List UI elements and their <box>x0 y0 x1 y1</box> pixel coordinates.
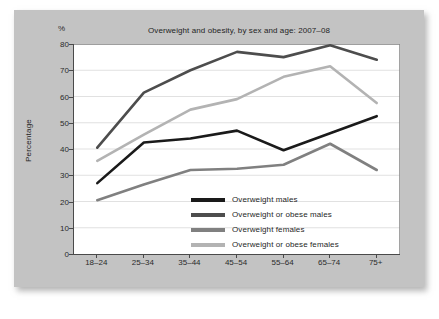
chart-legend: Overweight malesOverweight or obese male… <box>191 192 391 252</box>
legend-swatch <box>191 213 225 217</box>
y-tick-label: 60 <box>60 92 69 101</box>
chart-title: Overweight and obesity, by sex and age: … <box>74 26 404 35</box>
y-tick-label: 50 <box>60 118 69 127</box>
y-tick-label: 40 <box>60 145 69 154</box>
legend-label: Overweight males <box>232 195 298 204</box>
legend-item: Overweight females <box>191 222 391 237</box>
y-tick-label: 20 <box>60 197 69 206</box>
series-line <box>97 116 376 183</box>
x-tick-label: 75+ <box>369 258 383 267</box>
x-tick-label: 18–24 <box>85 258 107 267</box>
y-axis-tick-labels: 01020304050607080 <box>44 44 69 254</box>
y-tick-label: 10 <box>60 223 69 232</box>
legend-item: Overweight males <box>191 192 391 207</box>
legend-label: Overweight or obese females <box>232 240 339 249</box>
y-tick-label: 70 <box>60 66 69 75</box>
x-tick-label: 65–74 <box>318 258 340 267</box>
legend-swatch <box>191 243 225 247</box>
legend-item: Overweight or obese males <box>191 207 391 222</box>
y-axis-title: Percentage <box>24 109 33 173</box>
legend-label: Overweight or obese males <box>232 210 332 219</box>
y-tick-label: 30 <box>60 171 69 180</box>
x-axis-tick-labels: 18–2425–3435–4445–5455–6465–7475+ <box>73 258 399 274</box>
legend-swatch <box>191 198 225 202</box>
x-tick-label: 45–54 <box>225 258 247 267</box>
legend-label: Overweight females <box>232 225 305 234</box>
x-tick-label: 25–34 <box>132 258 154 267</box>
figure-root: % Overweight and obesity, by sex and age… <box>0 0 439 319</box>
y-axis-unit-label: % <box>58 24 65 33</box>
chart-panel: % Overweight and obesity, by sex and age… <box>14 10 424 287</box>
legend-swatch <box>191 228 225 232</box>
legend-item: Overweight or obese females <box>191 237 391 252</box>
x-tick-label: 55–64 <box>271 258 293 267</box>
y-tick-label: 80 <box>60 40 69 49</box>
x-tick-label: 35–44 <box>178 258 200 267</box>
